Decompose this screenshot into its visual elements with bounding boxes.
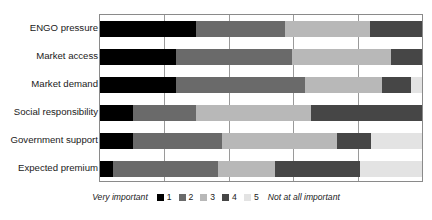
stacked-bar-chart: Very important 12345 Not at all importan… bbox=[0, 0, 432, 220]
chart-row bbox=[100, 15, 422, 43]
bar-segment-3 bbox=[196, 105, 311, 121]
legend-label-5: 5 bbox=[254, 192, 259, 202]
chart-row bbox=[100, 99, 422, 127]
legend-label-1: 1 bbox=[167, 192, 172, 202]
bar-segment-1 bbox=[100, 77, 176, 93]
bar-segment-4 bbox=[311, 105, 422, 121]
bar-segment-3 bbox=[285, 21, 370, 37]
bar-segment-5 bbox=[371, 133, 422, 149]
legend-entries: 12345 bbox=[157, 192, 259, 202]
bar-segment-3 bbox=[218, 161, 275, 177]
legend-item-1: 1 bbox=[157, 192, 172, 202]
legend-item-5: 5 bbox=[244, 192, 259, 202]
category-label: Social responsibility bbox=[0, 107, 98, 117]
category-label: ENGO pressure bbox=[0, 23, 98, 33]
legend-swatch-4 bbox=[222, 194, 229, 201]
bar-segment-1 bbox=[100, 21, 196, 37]
category-label: Market access bbox=[0, 51, 98, 61]
bar-segment-1 bbox=[100, 133, 133, 149]
bar-segment-2 bbox=[176, 77, 305, 93]
legend-swatch-5 bbox=[244, 194, 251, 201]
bar-segment-5 bbox=[360, 161, 422, 177]
legend-swatch-1 bbox=[157, 194, 164, 201]
legend-label-very-important: Very important bbox=[92, 192, 148, 202]
stacked-bar bbox=[100, 133, 422, 149]
legend-label-3: 3 bbox=[210, 192, 215, 202]
category-label: Expected premium bbox=[0, 163, 98, 173]
bar-segment-1 bbox=[100, 49, 176, 65]
legend-item-2: 2 bbox=[179, 192, 194, 202]
legend-label-4: 4 bbox=[232, 192, 237, 202]
bar-segment-3 bbox=[292, 49, 391, 65]
bar-segment-4 bbox=[275, 161, 360, 177]
chart-legend: Very important 12345 Not at all importan… bbox=[0, 192, 432, 202]
bar-segment-4 bbox=[370, 21, 422, 37]
legend-item-4: 4 bbox=[222, 192, 237, 202]
legend-label-not-at-all-important: Not at all important bbox=[268, 192, 340, 202]
chart-row bbox=[100, 43, 422, 71]
stacked-bar bbox=[100, 161, 422, 177]
bar-segment-4 bbox=[382, 77, 411, 93]
bar-segment-4 bbox=[337, 133, 371, 149]
legend-swatch-3 bbox=[200, 194, 207, 201]
chart-row bbox=[100, 71, 422, 99]
plot-area bbox=[99, 14, 423, 182]
legend-swatch-2 bbox=[179, 194, 186, 201]
bar-segment-3 bbox=[305, 77, 382, 93]
legend-label-2: 2 bbox=[189, 192, 194, 202]
stacked-bar bbox=[100, 77, 422, 93]
bar-segment-2 bbox=[133, 133, 222, 149]
category-label: Market demand bbox=[0, 79, 98, 89]
stacked-bar bbox=[100, 49, 422, 65]
bar-segment-2 bbox=[196, 21, 286, 37]
bar-segment-1 bbox=[100, 161, 113, 177]
bar-segment-5 bbox=[411, 77, 422, 93]
bar-segment-2 bbox=[133, 105, 196, 121]
bar-segment-1 bbox=[100, 105, 133, 121]
chart-row bbox=[100, 127, 422, 155]
legend-item-3: 3 bbox=[200, 192, 215, 202]
stacked-bar bbox=[100, 21, 422, 37]
bar-segment-4 bbox=[391, 49, 422, 65]
bar-segment-3 bbox=[222, 133, 337, 149]
category-label: Government support bbox=[0, 135, 98, 145]
bar-segment-2 bbox=[113, 161, 218, 177]
bar-segment-2 bbox=[176, 49, 293, 65]
chart-row bbox=[100, 155, 422, 183]
stacked-bar bbox=[100, 105, 422, 121]
